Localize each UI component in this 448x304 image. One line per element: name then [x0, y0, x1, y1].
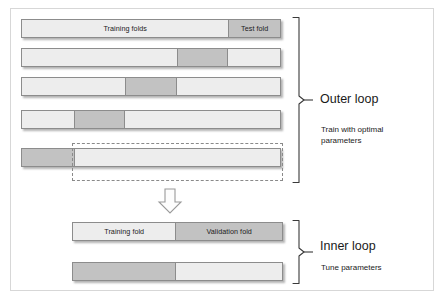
outer-training-segment-b [228, 49, 280, 66]
outer-training-segment-a [22, 49, 177, 66]
outer-training-segment-b [125, 111, 280, 128]
outer-test-fold-segment [74, 111, 126, 128]
down-arrow-icon [156, 188, 184, 214]
inner-loop-brace-icon [291, 219, 315, 285]
inner-fold-bar-row-2 [72, 262, 283, 281]
inner-validation-fold-segment: Validation fold [175, 223, 282, 240]
outer-test-fold-segment: Test fold [228, 20, 280, 37]
outer-loop-caption: Train with optimal parameters [321, 125, 416, 147]
outer-fold-bar-row-5 [21, 148, 281, 167]
outer-training-segment-a [22, 111, 74, 128]
inner-loop-title: Inner loop [320, 239, 376, 253]
outer-fold-bar-row-4 [21, 110, 281, 129]
outer-fold-bar-row-1: Training folds Test fold [21, 19, 281, 38]
inner-fold-bar-row-1: Training fold Validation fold [72, 222, 283, 241]
outer-loop-brace-icon [291, 16, 315, 184]
outer-training-segment-b [177, 78, 280, 95]
outer-test-fold-segment [125, 78, 177, 95]
inner-training-fold-segment: Training fold [73, 223, 175, 240]
outer-training-segment-a [22, 78, 125, 95]
outer-fold-bar-row-2 [21, 48, 281, 67]
inner-loop-caption: Tune parameters [321, 263, 416, 274]
outer-fold-bar-row-3 [21, 77, 281, 96]
outer-loop-title: Outer loop [320, 92, 378, 106]
inner-training-fold-segment [175, 263, 282, 280]
nested-cross-validation-diagram: Training folds Test fold Training fold V… [0, 0, 448, 304]
outer-test-fold-segment [22, 149, 74, 166]
outer-training-segment-a [74, 149, 280, 166]
outer-test-fold-segment [177, 49, 229, 66]
inner-validation-fold-segment [73, 263, 175, 280]
outer-training-folds-segment: Training folds [22, 20, 228, 37]
